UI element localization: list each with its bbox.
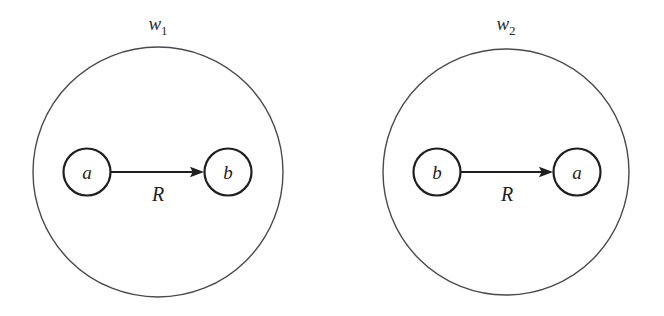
diagram-canvas: w1 R a b w2 R (0, 0, 664, 316)
node-a-world-2: a (554, 149, 601, 196)
node-b-world-2: b (414, 149, 461, 196)
node-label-a-2: a (572, 162, 582, 183)
world-label-2-subscript: 2 (509, 23, 516, 38)
world-label-1: w1 (148, 13, 167, 38)
world-label-2-base: w (496, 13, 509, 34)
world-label-1-subscript: 1 (161, 23, 168, 38)
node-label-b-2: b (432, 162, 442, 183)
relation-edge-label-2: R (500, 183, 513, 205)
world-group-1: w1 R a b (33, 13, 283, 297)
world-label-1-base: w (148, 13, 161, 34)
world-group-2: w2 R b a (383, 13, 629, 295)
node-b-world-1: b (205, 149, 252, 196)
world-label-2: w2 (496, 13, 515, 38)
modal-accessibility-diagram: w1 R a b w2 R (0, 0, 664, 316)
node-a-world-1: a (64, 149, 111, 196)
node-label-b-1: b (223, 162, 233, 183)
node-label-a-1: a (82, 162, 92, 183)
relation-edge-label-1: R (151, 183, 164, 205)
